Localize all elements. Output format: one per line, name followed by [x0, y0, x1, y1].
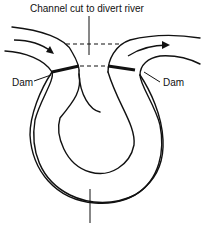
right-inner-bank	[140, 56, 200, 75]
left-inner-bank	[5, 51, 162, 203]
meander-drawing	[0, 0, 204, 230]
left-outer-bank	[12, 27, 100, 112]
river-meander-diagram: Channel cut to divert river Dam Dam	[0, 0, 204, 230]
flow-arrow-left	[14, 40, 52, 52]
dam-right-label: Dam	[163, 77, 184, 89]
dam-left	[52, 66, 79, 72]
dam-left-label: Dam	[12, 77, 33, 89]
channel-cut-label: Channel cut to divert river	[30, 3, 144, 15]
dam-right-leader	[144, 72, 160, 82]
dam-right	[108, 66, 135, 70]
inner-loop-bank	[59, 72, 134, 173]
outer-loop-bank	[30, 72, 163, 203]
